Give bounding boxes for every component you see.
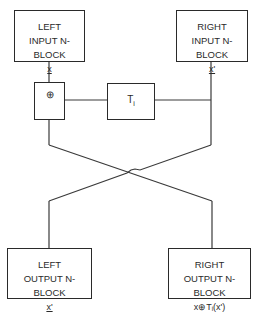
left-input-variable: x xyxy=(15,62,84,76)
right-output-subtitle: OUTPUT N-BLOCK xyxy=(169,272,250,300)
right-output-block: RIGHT OUTPUT N-BLOCK x⊕Tᵢ(x') xyxy=(168,248,251,299)
right-input-block: RIGHT INPUT N- BLOCK x' xyxy=(176,10,248,62)
left-output-title: LEFT xyxy=(8,258,91,272)
transform-subscript: i xyxy=(133,100,135,107)
left-output-variable: x' xyxy=(8,300,91,314)
left-input-block: LEFT INPUT N-BLOCK x xyxy=(14,10,85,62)
transform-box: Ti xyxy=(107,83,155,120)
right-input-subtitle: INPUT N- BLOCK xyxy=(177,34,247,62)
left-input-subtitle: INPUT N-BLOCK xyxy=(15,34,84,62)
left-output-block: LEFT OUTPUT N-BLOCK x' xyxy=(7,248,92,299)
left-input-title: LEFT xyxy=(15,20,84,34)
xor-icon: ⊕ xyxy=(46,89,54,100)
xor-operator-box: ⊕ xyxy=(34,82,65,120)
right-output-title: RIGHT xyxy=(169,258,250,272)
right-input-title: RIGHT xyxy=(177,20,247,34)
left-output-subtitle: OUTPUT N-BLOCK xyxy=(8,272,91,300)
right-input-variable: x' xyxy=(177,62,247,76)
right-output-formula: x⊕Tᵢ(x') xyxy=(169,300,250,314)
